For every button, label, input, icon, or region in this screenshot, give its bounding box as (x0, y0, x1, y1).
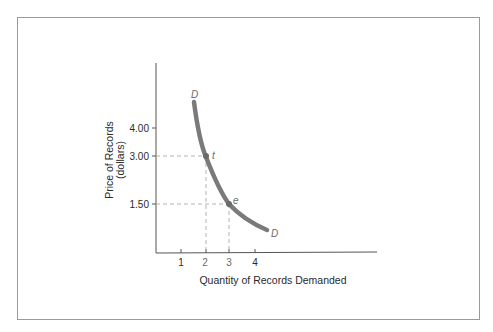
y-axis-title-line2: (dollars) (114, 141, 126, 179)
x-tick-label-2: 2 (202, 257, 208, 268)
point-e-label: e (233, 195, 239, 206)
y-tick-label-1.5: 1.50 (130, 199, 150, 210)
y-tick-label-4: 4.00 (130, 123, 150, 134)
x-tick-label-4: 4 (252, 257, 258, 268)
point-t-label: t (212, 150, 216, 161)
point-t-marker (203, 153, 209, 159)
y-tick-label-3: 3.00 (130, 151, 150, 162)
x-axis-title: Quantity of Records Demanded (199, 274, 346, 286)
curve-label-bottom: D (271, 228, 278, 239)
point-e-marker (226, 201, 232, 207)
curve-label-top: D (191, 89, 198, 100)
x-axis (156, 252, 377, 253)
demand-chart: D t e D 4.00 3.00 1.50 1 2 3 4 Quantity … (0, 0, 493, 332)
demand-curve (194, 102, 267, 230)
x-tick-label-3: 3 (226, 257, 232, 268)
x-tick-label-1: 1 (178, 257, 184, 268)
